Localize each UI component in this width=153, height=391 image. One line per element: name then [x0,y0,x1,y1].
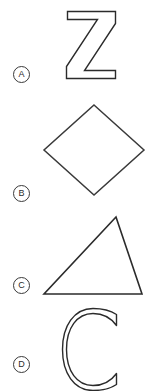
option-row-a[interactable]: A [0,0,153,88]
option-row-b[interactable]: B [0,88,153,205]
letter-z-outline-icon [62,7,120,83]
option-marker-a[interactable]: A [13,66,30,83]
option-figure-b [41,102,147,198]
option-figure-a [62,7,120,83]
option-marker-b[interactable]: B [13,185,30,202]
option-marker-c[interactable]: C [13,277,30,294]
option-row-d[interactable]: D [0,305,153,391]
letter-c-outline-icon [62,309,122,391]
triangle-outline-icon [40,213,146,299]
multiple-choice-options-panel: A B C D [0,0,153,391]
option-figure-d [62,309,122,391]
option-marker-d[interactable]: D [13,356,30,373]
option-row-c[interactable]: C [0,205,153,305]
diamond-outline-icon [41,102,147,198]
option-figure-c [40,213,146,299]
